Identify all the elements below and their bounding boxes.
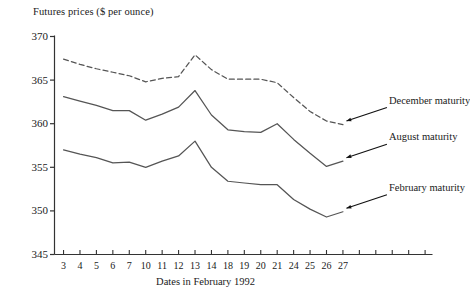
annotation-label-december-maturity: December maturity: [389, 95, 470, 106]
series-line-december-maturity: [64, 55, 343, 125]
annotation-arrow: [346, 108, 387, 122]
annotation-label-august-maturity: August maturity: [389, 131, 458, 142]
x-axis-tick-label: 27: [333, 261, 353, 271]
annotation-arrow: [346, 195, 387, 209]
y-axis-tick-label: 350: [18, 205, 48, 216]
y-axis-tick-label: 355: [18, 162, 48, 173]
series-line-february-maturity: [64, 141, 343, 217]
y-axis-tick-label: 370: [18, 31, 48, 42]
y-axis-tick-label: 365: [18, 75, 48, 86]
y-axis-tick-label: 345: [18, 249, 48, 260]
x-axis-title: Dates in February 1992: [0, 276, 455, 287]
y-axis-tick-label: 360: [18, 118, 48, 129]
x-axis-title-text: Dates in February 1992: [156, 276, 255, 287]
annotation-arrow: [346, 144, 387, 158]
annotation-label-february-maturity: February maturity: [389, 182, 465, 193]
